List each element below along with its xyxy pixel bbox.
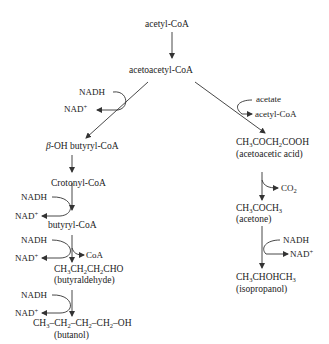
label-coa: CoA [86, 250, 103, 261]
acetate-curve [237, 100, 252, 114]
label-nadh-4: NADH [21, 290, 47, 301]
label-acetate: acetate [256, 94, 281, 105]
plus-sup: + [35, 210, 39, 217]
label-isopropanol-formula: CH3CHOHCH3 [236, 272, 296, 283]
label-nad-1: NAD+ [64, 104, 87, 115]
plus-sup: + [84, 103, 88, 110]
nad-text: NAD [64, 104, 84, 114]
label-acetoacetic-formula: CH3COCH2COOH [236, 137, 309, 148]
label-butanol-name: (butanol) [54, 330, 89, 341]
label-acetyl-coa-out: acetyl-CoA [255, 109, 296, 120]
label-nadh-1: NADH [79, 87, 105, 98]
nad-text: NAD [290, 249, 310, 259]
label-isopropanol-name: (isopropanol) [236, 284, 287, 295]
label-butyraldehyde-formula: CH3CH2CH2CHO [54, 264, 123, 275]
nad-text: NAD [15, 253, 35, 263]
label-crotonyl-coa: Crotonyl-CoA [51, 178, 106, 189]
label-co2: CO2 [281, 183, 297, 194]
co2-curve [262, 180, 278, 188]
plus-sup: + [35, 252, 39, 259]
label-nad-2: NAD+ [15, 211, 38, 222]
label-butyraldehyde-name: (butyraldehyde) [54, 275, 115, 286]
label-acetone-name: (acetone) [236, 214, 271, 225]
label-acetone-formula: CH3COCH3 [236, 203, 282, 214]
label-nad-right: NAD+ [290, 249, 313, 260]
nad-text: NAD [15, 308, 35, 318]
plus-sup: + [35, 307, 39, 314]
coa-curve [72, 248, 84, 255]
label-nad-3: NAD+ [15, 253, 38, 264]
arrow-to-acetoacetic [195, 82, 265, 133]
label-acetyl-coa: acetyl-CoA [145, 19, 189, 30]
label-nadh-right: NADH [283, 235, 309, 246]
label-beta-oh-butyryl-coa: β-OH butyryl-CoA [46, 141, 119, 152]
label-nadh-2: NADH [21, 192, 47, 203]
label-butyryl-coa: butyryl-CoA [48, 220, 97, 231]
label-acetoacetic-name: (acetoacetic acid) [236, 149, 303, 160]
nad-text: NAD [15, 211, 35, 221]
label-butanol-formula: CH3–CH2–CH2–CH2–OH [33, 318, 132, 329]
beta-oh-text: -OH butyryl-CoA [51, 141, 119, 151]
label-nadh-3: NADH [21, 235, 47, 246]
plus-sup: + [310, 248, 314, 255]
label-acetoacetyl-coa: acetoacetyl-CoA [129, 65, 193, 76]
